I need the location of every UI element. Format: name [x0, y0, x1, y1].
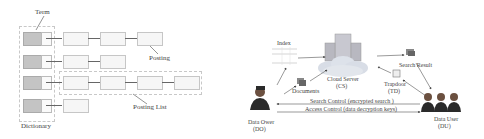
data-user-label: Data User — [434, 116, 458, 122]
trapdoor-icon — [393, 70, 400, 77]
index-table-icon — [272, 47, 297, 65]
right-graphics — [0, 0, 484, 139]
cloud-server-abbr: (CS) — [336, 83, 347, 89]
access-control-label: Access Control (data decryption keys) — [305, 106, 397, 112]
data-owner-label: Data Ower — [248, 119, 274, 125]
search-control-label: Search Control (encrypted search ) — [310, 98, 394, 104]
index-label: Index — [277, 40, 291, 46]
documents-icon — [297, 78, 306, 86]
trapdoor-label: Trapdoor — [384, 81, 406, 87]
data-owner-icon — [250, 86, 270, 110]
data-users-icon — [421, 93, 461, 112]
search-result-label: Search Result — [399, 62, 432, 68]
cloud-server-icon — [318, 34, 368, 77]
data-user-abbr: (DU) — [438, 123, 451, 129]
documents-label: Documents — [292, 88, 319, 94]
search-result-icon — [406, 49, 415, 56]
cloud-server-label: Cloud Server — [327, 76, 359, 82]
data-owner-abbr: (DO) — [253, 126, 266, 132]
trapdoor-abbr: (TD) — [388, 88, 400, 94]
